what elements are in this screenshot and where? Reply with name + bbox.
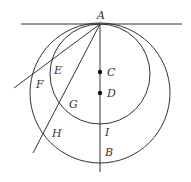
secant-line-aef	[14, 24, 100, 88]
point-label-g: G	[69, 98, 78, 111]
point-label-h: H	[51, 127, 62, 140]
point-d-dot	[98, 91, 102, 95]
point-label-b: B	[104, 146, 113, 159]
point-labels: ACDEFGHIB	[35, 9, 116, 159]
point-label-d: D	[106, 87, 116, 100]
point-label-a: A	[96, 9, 105, 22]
point-label-i: I	[104, 126, 110, 139]
geometry-diagram: ACDEFGHIB	[0, 0, 191, 182]
point-label-e: E	[53, 64, 62, 77]
point-label-f: F	[35, 78, 44, 91]
point-label-c: C	[107, 66, 116, 79]
point-c-dot	[98, 70, 102, 74]
